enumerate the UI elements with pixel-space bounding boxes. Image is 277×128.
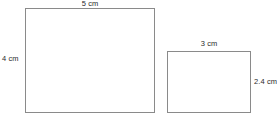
large-rectangle [25, 8, 155, 113]
geometry-diagram: 5 cm 4 cm 3 cm 2.4 cm [0, 0, 277, 128]
small-rectangle-height-label: 2.4 cm [254, 77, 277, 86]
small-rectangle [167, 51, 251, 113]
large-rectangle-width-label: 5 cm [25, 0, 155, 8]
large-rectangle-height-label: 4 cm [2, 54, 23, 63]
small-rectangle-width-label: 3 cm [167, 39, 251, 48]
